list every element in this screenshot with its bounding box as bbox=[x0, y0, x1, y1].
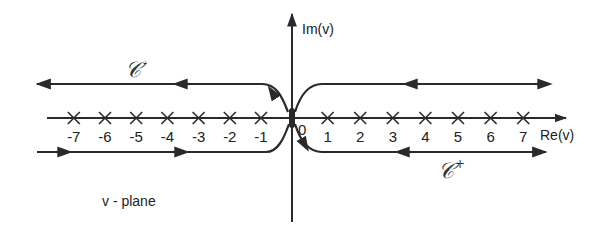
contour-diagram: -7-6-5-4-3-2-11234567 0 Im(v) Re(v) v - … bbox=[0, 0, 609, 236]
contour-c-plus-superscript: + bbox=[455, 157, 465, 171]
contour-c-minus-curve-arrow bbox=[272, 92, 276, 98]
imaginary-axis-label: Im(v) bbox=[302, 21, 334, 37]
pole-label: 1 bbox=[323, 128, 331, 145]
contour-c-plus-label: 𝒞+ bbox=[438, 157, 465, 183]
pole-label: -1 bbox=[254, 128, 267, 145]
origin-marker bbox=[289, 108, 295, 128]
pole-label: -7 bbox=[67, 128, 80, 145]
pole-label: -5 bbox=[130, 128, 143, 145]
pole-label: -2 bbox=[223, 128, 236, 145]
pole-label: 6 bbox=[486, 128, 494, 145]
pole-label: 4 bbox=[421, 128, 429, 145]
origin-label: 0 bbox=[298, 121, 306, 138]
pole-label: -3 bbox=[192, 128, 205, 145]
pole-label: -4 bbox=[161, 128, 174, 145]
pole-label: 5 bbox=[454, 128, 462, 145]
contour-c-minus-superscript: - bbox=[143, 56, 147, 70]
contour-c-minus-upper bbox=[37, 84, 288, 112]
pole-label: 2 bbox=[356, 128, 364, 145]
real-axis-label: Re(v) bbox=[540, 127, 574, 143]
pole-label: -6 bbox=[98, 128, 111, 145]
plane-label: v - plane bbox=[102, 193, 156, 209]
pole-label: 3 bbox=[389, 128, 397, 145]
pole-label: 7 bbox=[519, 128, 527, 145]
contour-c-plus-upper bbox=[295, 84, 545, 112]
contour-c-minus-label: 𝒞- bbox=[125, 56, 147, 82]
